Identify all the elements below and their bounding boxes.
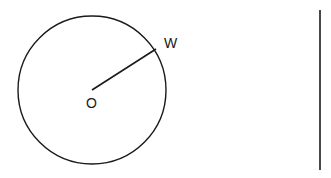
diagram-canvas: O W bbox=[0, 0, 331, 178]
label-w: W bbox=[164, 35, 178, 51]
label-o: O bbox=[86, 95, 97, 111]
radius-ow bbox=[92, 49, 156, 90]
